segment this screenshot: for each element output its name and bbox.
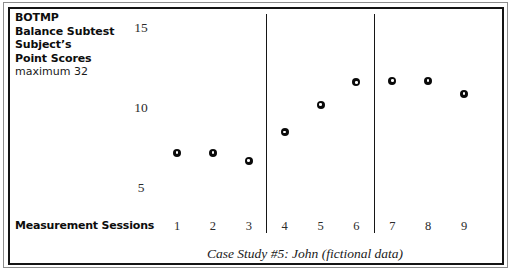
figure-caption: Case Study #5: John (fictional data) bbox=[207, 246, 403, 262]
y-tick-label: 15 bbox=[134, 20, 148, 36]
data-point-marker bbox=[460, 90, 468, 98]
data-point-marker bbox=[388, 77, 396, 85]
x-tick-label: 2 bbox=[210, 219, 216, 234]
data-point-marker bbox=[317, 101, 325, 109]
phase-divider-line bbox=[266, 14, 268, 233]
x-tick-label: 8 bbox=[425, 219, 431, 234]
data-point-marker bbox=[281, 128, 289, 136]
plot-area: 15105123456789 bbox=[0, 0, 516, 274]
figure-container: BOTMP Balance Subtest Subject’s Point Sc… bbox=[0, 0, 516, 274]
data-point-marker bbox=[424, 77, 432, 85]
data-point-marker bbox=[209, 149, 217, 157]
y-tick-label: 5 bbox=[138, 180, 145, 196]
x-tick-label: 4 bbox=[282, 219, 288, 234]
x-tick-label: 3 bbox=[246, 219, 252, 234]
y-tick-label: 10 bbox=[134, 100, 148, 116]
phase-divider-line bbox=[374, 14, 376, 233]
x-tick-label: 6 bbox=[353, 219, 359, 234]
x-tick-label: 1 bbox=[174, 219, 180, 234]
data-point-marker bbox=[245, 157, 253, 165]
x-tick-label: 5 bbox=[317, 219, 323, 234]
x-tick-label: 7 bbox=[389, 219, 395, 234]
x-axis-label: Measurement Sessions bbox=[15, 219, 154, 232]
x-tick-label: 9 bbox=[461, 219, 467, 234]
data-point-marker bbox=[173, 149, 181, 157]
data-point-marker bbox=[352, 78, 360, 86]
